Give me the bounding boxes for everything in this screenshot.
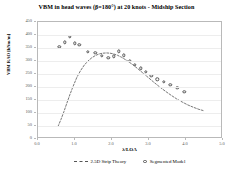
y-tick-label: 450: [25, 19, 32, 23]
x-axis-title: λ/LOA: [37, 147, 222, 152]
y-tick-label: 100: [25, 110, 32, 114]
gridline: [38, 100, 221, 101]
dashed-line-icon: [74, 161, 88, 162]
plot-area: [37, 21, 222, 138]
y-axis: 050100150200250300350400450: [13, 21, 34, 138]
y-tick-label: 350: [25, 45, 32, 49]
x-tick-label: 3.0: [145, 142, 151, 146]
y-tick-label: 50: [28, 123, 32, 127]
y-tick-label: 150: [25, 97, 32, 101]
x-tick-mark: [222, 138, 223, 140]
y-tick-mark: [34, 125, 36, 126]
gridline: [38, 48, 221, 49]
chart-legend: 2.5D Strip Theory Segmented Model: [37, 156, 222, 167]
legend-entry-segmented-model: Segmented Model: [143, 159, 185, 164]
y-tick-mark: [34, 112, 36, 113]
gridline: [38, 61, 221, 62]
y-tick-mark: [34, 86, 36, 87]
y-axis-title: VBM RAO [kNm/m]: [6, 19, 11, 91]
strip-theory-curve: [38, 22, 223, 139]
y-tick-label: 250: [25, 71, 32, 75]
legend-label-strip-theory: 2.5D Strip Theory: [91, 159, 127, 164]
legend-entry-strip-theory: 2.5D Strip Theory: [74, 159, 127, 164]
chart-figure: VBM in head waves (β=180°) at 20 knots -…: [0, 0, 233, 171]
open-circle-icon: [143, 160, 146, 163]
x-tick-label: 4.0: [182, 142, 188, 146]
gridline: [38, 74, 221, 75]
gridline: [38, 87, 221, 88]
y-tick-label: 0: [30, 136, 32, 140]
y-tick-label: 200: [25, 84, 32, 88]
x-tick-label: 5.0: [219, 142, 225, 146]
x-tick-label: 0.0: [34, 142, 40, 146]
y-tick-mark: [34, 138, 36, 139]
gridline: [38, 126, 221, 127]
x-tick-mark: [74, 138, 75, 140]
y-tick-mark: [34, 73, 36, 74]
x-tick-mark: [148, 138, 149, 140]
x-tick-mark: [111, 138, 112, 140]
y-tick-mark: [34, 34, 36, 35]
x-tick-label: 1.0: [71, 142, 77, 146]
y-tick-mark: [34, 99, 36, 100]
chart-title: VBM in head waves (β=180°) at 20 knots -…: [0, 3, 233, 11]
x-tick-mark: [185, 138, 186, 140]
x-tick-label: 2.0: [108, 142, 114, 146]
y-tick-mark: [34, 21, 36, 22]
y-tick-label: 300: [25, 58, 32, 62]
y-tick-mark: [34, 60, 36, 61]
gridline: [38, 35, 221, 36]
y-tick-label: 400: [25, 32, 32, 36]
y-tick-mark: [34, 47, 36, 48]
legend-label-segmented-model: Segmented Model: [150, 159, 186, 164]
gridline: [38, 113, 221, 114]
x-tick-mark: [37, 138, 38, 140]
